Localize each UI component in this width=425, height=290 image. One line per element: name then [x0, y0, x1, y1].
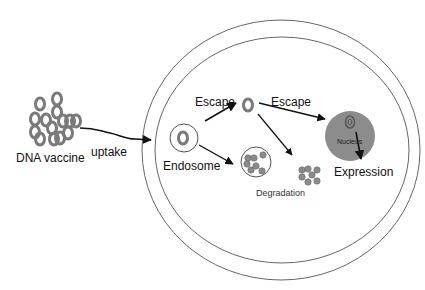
- expression-label: Expression: [334, 166, 393, 178]
- dna-vaccine-label: DNA vaccine: [16, 152, 85, 164]
- diagram-canvas: [0, 0, 425, 290]
- degraded-cytoplasm-particles-icon: [299, 166, 320, 185]
- uptake-arrow: [80, 128, 151, 140]
- uptake-label: uptake: [91, 146, 127, 158]
- escape-label-2: Escape: [271, 96, 311, 108]
- cell-inner-membrane: [155, 37, 409, 263]
- endosome-label: Endosome: [163, 160, 220, 172]
- nucleus-label: Nucleus: [337, 138, 362, 145]
- endosome-icon: [170, 124, 198, 152]
- escaped-plasmid-icon: [244, 99, 253, 111]
- dna-vaccine-cluster-icon: [31, 93, 81, 145]
- degradation-label: Degradation: [256, 189, 305, 198]
- escape-label-1: Escape: [195, 96, 235, 108]
